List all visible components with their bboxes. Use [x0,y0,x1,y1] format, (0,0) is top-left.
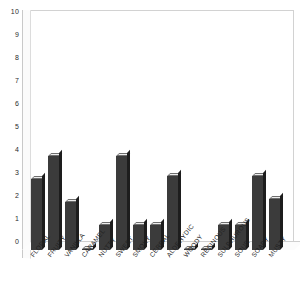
y-axis-tick: 4 [15,146,19,153]
y-axis-tick: 5 [15,123,19,130]
y-axis-tick: 0 [15,238,19,245]
x-axis-labels: FLORALFRUITYVANILLACARAMELNUTTYSWEETSMOK… [31,252,300,305]
y-axis: 109876543210 [0,0,22,305]
y-axis-tick: 8 [15,54,19,61]
y-axis-tick: 10 [11,8,19,15]
y-axis-tick: 7 [15,77,19,84]
plot-left-wall [22,10,31,258]
bar-body [116,156,127,250]
y-axis-tick: 1 [15,215,19,222]
bars-layer [31,10,293,250]
y-axis-tick: 6 [15,100,19,107]
y-axis-tick: 3 [15,169,19,176]
y-axis-tick: 2 [15,192,19,199]
y-axis-tick: 9 [15,31,19,38]
bar-chart: 109876543210 FLORALFRUITYVANILLACARAMELN… [0,0,300,305]
